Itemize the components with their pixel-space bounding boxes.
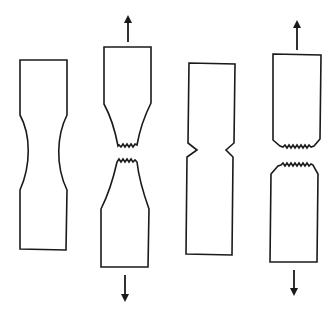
specimen-2-top-piece (104, 47, 151, 147)
specimen-3-outline (186, 63, 235, 255)
specimen-ductile-necked (20, 60, 67, 250)
specimen-ductile-fractured (101, 15, 151, 302)
arrow-down-icon (121, 275, 129, 302)
arrow-down-icon (290, 270, 298, 296)
arrow-up-icon (124, 15, 132, 42)
specimen-4-top-piece (273, 54, 321, 148)
arrow-up-icon (293, 20, 301, 50)
specimen-4-bottom-piece (270, 163, 318, 262)
specimen-1-outline (20, 60, 67, 250)
specimen-brittle-fractured (270, 20, 321, 296)
tensile-specimens-diagram (0, 0, 336, 317)
specimen-notched (186, 63, 235, 255)
specimen-2-bottom-piece (101, 159, 149, 267)
